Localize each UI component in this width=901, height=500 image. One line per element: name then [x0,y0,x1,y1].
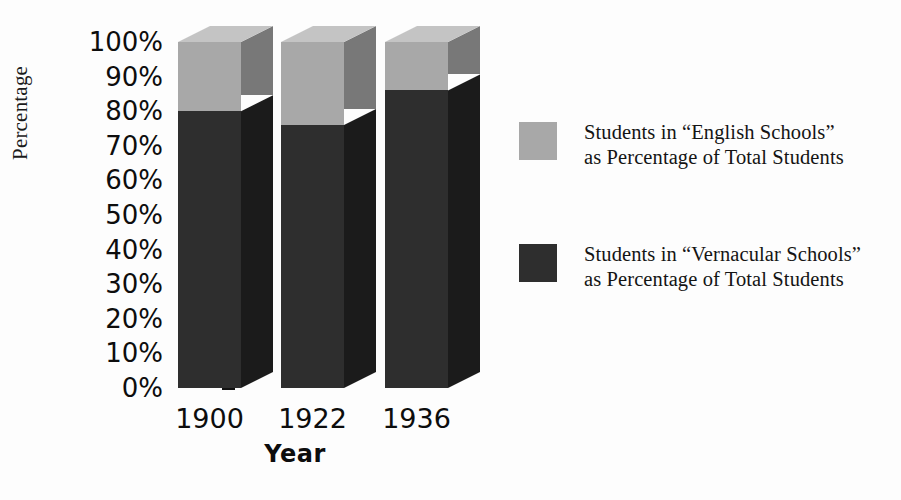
y-axis-tickmark-70 [222,145,235,148]
bar-segment-front-1922-1 [281,42,344,125]
y-axis-tickmark-100 [222,41,235,44]
x-axis-tick-1922: 1922 [263,405,362,432]
y-axis-tickmark-20 [222,318,235,321]
legend-label-line-1: Students in “Vernacular Schools” [584,242,861,267]
y-axis-tick-0: 0% [55,375,163,401]
y-axis-tick-10: 10% [55,340,163,366]
bar-segment-side-1900-1 [241,26,273,95]
y-axis-tickmark-80 [222,110,235,113]
y-axis-title: Percentage [8,0,33,160]
bar-segment-front-1936-1 [385,42,448,90]
y-axis-tick-30: 30% [55,271,163,297]
bar-segment-side-1922-1 [344,26,376,109]
bar-top-face-1900 [178,26,273,42]
x-axis-title: Year [150,440,440,468]
bar-top-face-1922 [281,26,376,42]
legend-item-english-schools[interactable]: Students in “English Schools” as Percent… [519,120,889,170]
y-axis-tick-40: 40% [55,237,163,263]
y-axis-tickmark-50 [222,214,235,217]
y-axis-tickmark-10 [222,352,235,355]
x-axis-tick-1900: 1900 [160,405,259,432]
y-axis-tickmark-0 [222,387,235,390]
y-axis-tick-90: 90% [55,64,163,90]
y-axis-tickmark-90 [222,76,235,79]
bar-top-face-1936 [385,26,480,42]
y-axis-tick-70: 70% [55,133,163,159]
bar-chart: Percentage 100%90%80%70%60%50%40%30%20%1… [0,0,901,500]
legend-label-line-2: as Percentage of Total Students [584,145,844,170]
y-axis-tickmark-60 [222,179,235,182]
y-axis-tick-100: 100% [55,29,163,55]
bar-base-shadow-1922 [344,372,376,388]
legend-swatch-icon-english-schools [519,122,557,160]
y-axis-tick-80: 80% [55,98,163,124]
legend-label-line-2: as Percentage of Total Students [584,267,861,292]
bar-segment-front-1922-0 [281,125,344,388]
bar-segment-front-1936-0 [385,90,448,388]
legend-label-english-schools: Students in “English Schools” as Percent… [584,120,844,170]
legend-label-line-1: Students in “English Schools” [584,120,844,145]
y-axis-tick-60: 60% [55,167,163,193]
y-axis-tick-50: 50% [55,202,163,228]
legend-swatch-icon-vernacular-schools [519,244,557,282]
bar-segment-side-1936-0 [448,74,480,372]
bar-base-shadow-1936 [448,372,480,388]
bar-segment-side-1900-0 [241,95,273,372]
x-axis-tick-1936: 1936 [367,405,466,432]
chart-legend: Students in “English Schools” as Percent… [519,120,889,364]
legend-label-vernacular-schools: Students in “Vernacular Schools” as Perc… [584,242,861,292]
bar-base-shadow-1900 [241,372,273,388]
y-axis-tick-20: 20% [55,306,163,332]
legend-item-vernacular-schools[interactable]: Students in “Vernacular Schools” as Perc… [519,242,889,292]
bar-segment-side-1936-1 [448,26,480,74]
y-axis-tickmark-30 [222,283,235,286]
bar-segment-side-1922-0 [344,109,376,372]
y-axis-tickmark-40 [222,249,235,252]
y-axis-tick-labels: 100%90%80%70%60%50%40%30%20%10%0% [55,0,163,500]
